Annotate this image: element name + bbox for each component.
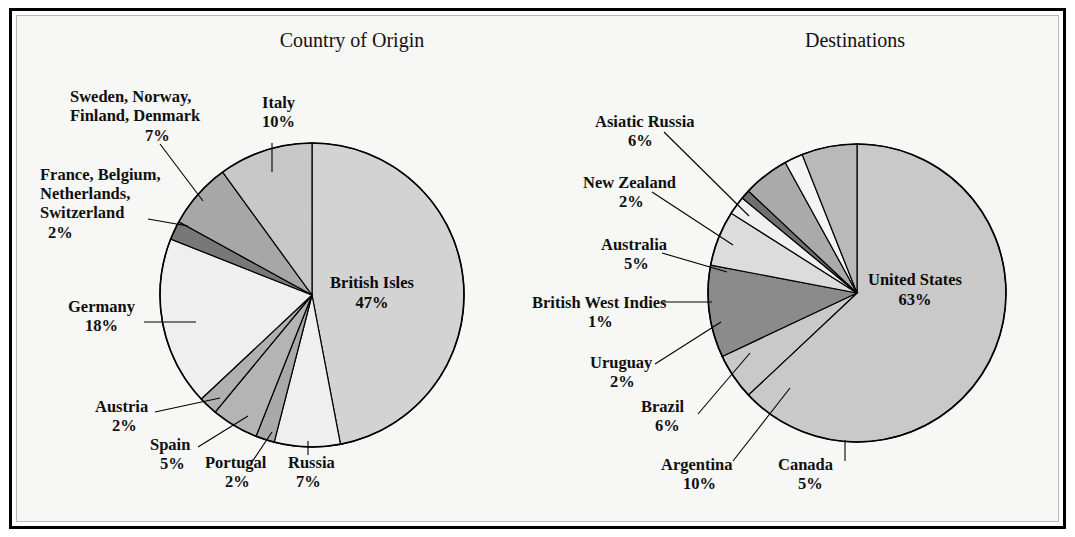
pie-label-brazil: Brazil <box>641 397 684 416</box>
pie-label-argentina: Argentina <box>661 455 733 474</box>
figure-page: Country of Origin British Isles47%Russia… <box>0 0 1075 537</box>
pie-value-australia: 5% <box>624 254 649 273</box>
pie-label-uruguay: Uruguay <box>590 353 653 372</box>
leader-line-uruguay <box>655 322 721 364</box>
pie-label-united-states: United States <box>868 270 963 289</box>
pie-label-british-west-indies: British West Indies <box>532 293 667 312</box>
pie-slices-destinations <box>708 144 1006 442</box>
pie-value-spain: 5% <box>160 454 185 473</box>
pie-value-new-zealand: 2% <box>619 192 644 211</box>
pie-value-brazil: 6% <box>655 416 680 435</box>
pie-label-canada: Canada <box>778 455 833 474</box>
pie-label-british-isles: British Isles <box>330 273 414 292</box>
pie-value-united-states: 63% <box>899 290 932 309</box>
pie-value-british-west-indies: 1% <box>588 312 613 331</box>
pie-label-australia: Australia <box>601 235 667 254</box>
pie-label-spain: Spain <box>150 435 190 454</box>
pie-label-new-zealand: New Zealand <box>583 173 676 192</box>
leader-line-spain <box>198 416 248 447</box>
pie-value-russia: 7% <box>296 472 321 491</box>
pie-value-france-belgium-netherlands-switzerland: 2% <box>48 223 73 242</box>
pie-value-germany: 18% <box>85 316 118 335</box>
pie-label-france-belgium-netherlands-switzerland: Switzerland <box>40 203 124 222</box>
pie-label-france-belgium-netherlands-switzerland: Netherlands, <box>40 184 130 203</box>
pie-value-italy: 10% <box>262 112 295 131</box>
leader-line-sweden-norway-finland-denmark <box>160 144 203 201</box>
chart-title-country-of-origin: Country of Origin <box>280 29 424 52</box>
pie-label-portugal: Portugal <box>205 453 267 472</box>
pie-value-asiatic-russia: 6% <box>628 131 653 150</box>
pie-value-sweden-norway-finland-denmark: 7% <box>145 126 170 145</box>
chart-destinations: Destinations United States63%Canada5%Arg… <box>532 29 1006 493</box>
chart-country-of-origin: Country of Origin British Isles47%Russia… <box>40 29 464 491</box>
figure-plate: Country of Origin British Isles47%Russia… <box>0 0 1075 537</box>
pie-label-italy: Italy <box>262 93 296 112</box>
pie-value-canada: 5% <box>798 474 823 493</box>
pie-label-asiatic-russia: Asiatic Russia <box>595 112 694 131</box>
pie-label-russia: Russia <box>288 453 335 472</box>
pie-value-argentina: 10% <box>683 474 716 493</box>
pie-value-british-isles: 47% <box>356 293 389 312</box>
pie-charts-svg: Country of Origin British Isles47%Russia… <box>0 0 1075 537</box>
pie-label-sweden-norway-finland-denmark: Sweden, Norway, <box>70 87 191 106</box>
pie-label-sweden-norway-finland-denmark: Finland, Denmark <box>70 106 201 125</box>
leader-line-asiatic-russia <box>664 132 749 216</box>
chart-title-destinations: Destinations <box>805 29 905 51</box>
pie-label-france-belgium-netherlands-switzerland: France, Belgium, <box>40 165 161 184</box>
pie-label-germany: Germany <box>68 297 136 316</box>
pie-value-uruguay: 2% <box>610 372 635 391</box>
pie-value-portugal: 2% <box>225 472 250 491</box>
pie-label-austria: Austria <box>95 397 148 416</box>
pie-value-austria: 2% <box>112 416 137 435</box>
